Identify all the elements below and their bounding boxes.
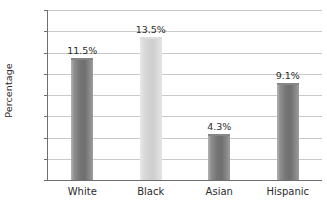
bar-cap [71, 58, 93, 60]
x-label-white: White [68, 186, 97, 197]
gridline [48, 10, 322, 11]
y-axis-title-text: Percentage [3, 63, 14, 117]
x-axis-baseline [48, 180, 322, 181]
bar-cap [208, 134, 230, 136]
value-label-asian: 4.3% [207, 121, 231, 132]
x-label-hispanic: Hispanic [266, 186, 309, 197]
x-label-black: Black [137, 186, 164, 197]
gridline [48, 31, 322, 32]
bar-black [140, 37, 162, 180]
bar-white [71, 58, 93, 180]
bar-chart: Percentage 0246810121416 11.5%13.5%4.3%9… [0, 0, 327, 208]
value-label-hispanic: 9.1% [276, 70, 300, 81]
value-label-white: 11.5% [67, 45, 97, 56]
bar-body [140, 37, 162, 180]
bar-asian [208, 134, 230, 180]
y-axis-title: Percentage [0, 0, 16, 180]
value-label-black: 13.5% [136, 24, 166, 35]
bar-cap [140, 37, 162, 39]
bar-body [71, 58, 93, 180]
plot-area: 11.5%13.5%4.3%9.1% [48, 10, 322, 180]
bar-body [208, 134, 230, 180]
bar-hispanic [277, 83, 299, 180]
x-label-asian: Asian [206, 186, 233, 197]
bar-cap [277, 83, 299, 85]
bar-body [277, 83, 299, 180]
